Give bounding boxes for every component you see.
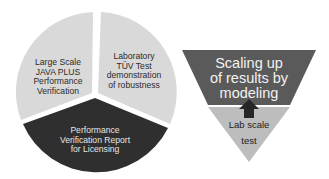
funnel-bottom-label: Lab scale test xyxy=(214,117,284,149)
pie-label-licensing: Performance Verification Report for Lice… xyxy=(50,126,140,155)
funnel-top-label: Scaling up of results by modeling xyxy=(206,56,292,100)
pie-label-large-scale: Large Scale JAVA PLUS Performance Verifi… xyxy=(28,58,88,97)
pie-label-laboratory: Laboratory TÜV Test demonstration of rob… xyxy=(100,52,168,91)
